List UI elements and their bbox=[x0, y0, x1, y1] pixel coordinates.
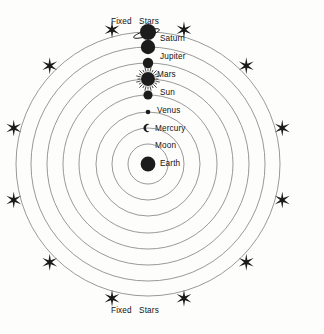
body-mars bbox=[143, 58, 153, 68]
label-saturn: Saturn bbox=[160, 34, 185, 43]
label-mercury: Mercury bbox=[155, 124, 186, 133]
geocentric-model-diagram: Fixed Stars Fixed Stars Saturn Jupiter M… bbox=[0, 0, 324, 334]
label-venus: Venus bbox=[157, 106, 181, 115]
fixed-star-9 bbox=[239, 254, 254, 271]
label-mars: Mars bbox=[157, 70, 176, 79]
label-moon: Moon bbox=[155, 141, 176, 150]
fixed-stars-caption-bottom: Fixed Stars bbox=[111, 306, 159, 315]
fixed-star-12 bbox=[275, 120, 290, 137]
fixed-star-1 bbox=[6, 191, 21, 208]
body-jupiter bbox=[141, 40, 155, 54]
label-jupiter: Jupiter bbox=[160, 52, 186, 61]
label-sun: Sun bbox=[160, 88, 175, 97]
fixed-star-10 bbox=[239, 57, 254, 74]
fixed-stars-caption-top: Fixed Stars bbox=[111, 17, 159, 26]
fixed-star-4 bbox=[42, 57, 57, 74]
body-mercury bbox=[146, 110, 151, 115]
fixed-star-2 bbox=[6, 120, 21, 137]
fixed-star-11 bbox=[275, 191, 290, 208]
fixed-star-3 bbox=[42, 254, 57, 271]
body-earth bbox=[141, 157, 156, 172]
body-venus bbox=[143, 90, 152, 99]
label-earth: Earth bbox=[160, 159, 180, 168]
